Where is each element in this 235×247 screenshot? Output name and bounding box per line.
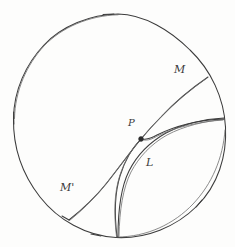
label-m: M xyxy=(174,64,185,75)
curve-l-inner xyxy=(115,119,224,237)
label-p: P xyxy=(128,118,135,128)
curve-l-outer xyxy=(118,118,224,237)
diagram-canvas: M M' P L xyxy=(0,0,235,247)
geodesic-m-mprime xyxy=(69,77,208,221)
point-p-marker xyxy=(139,137,144,142)
diagram-svg xyxy=(0,0,235,247)
label-l: L xyxy=(146,157,153,168)
label-m-prime: M' xyxy=(60,182,74,193)
